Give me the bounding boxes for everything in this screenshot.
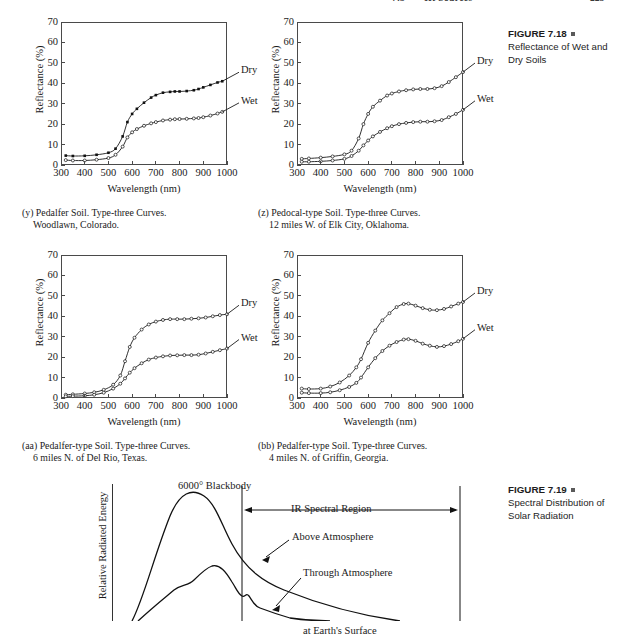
data-point: [397, 123, 400, 126]
x-tick-label: 600: [360, 167, 376, 178]
data-point: [350, 155, 353, 158]
x-tick-mark: [84, 394, 85, 398]
data-point: [388, 344, 391, 347]
x-axis-ticks: 3004005006007008009001000: [297, 400, 463, 414]
annotation-through-atmosphere-line2: at Earth's Surface: [303, 625, 377, 636]
data-point: [140, 362, 143, 365]
data-point: [71, 159, 74, 162]
data-point: [143, 101, 146, 104]
x-tick-label: 300: [53, 167, 69, 178]
data-point: [169, 354, 172, 357]
chart-area: Reflectance (%)706050403020100DryWet3004…: [26, 255, 254, 433]
panel-caption-aa: (aa) Pedalfer-type Soil. Type-three Curv…: [22, 440, 190, 463]
data-point: [300, 391, 303, 394]
data-point: [319, 156, 322, 159]
data-point: [112, 387, 115, 390]
data-point: [307, 157, 310, 160]
curve-through-atmosphere: [138, 566, 330, 621]
series-leader-line: [227, 305, 239, 314]
running-head-title: IR Sources: [424, 0, 472, 3]
data-point: [169, 118, 172, 121]
data-point: [331, 155, 334, 158]
x-tick-label: 600: [124, 167, 140, 178]
y-tick-label: 30: [268, 99, 294, 109]
x-tick-label: 400: [77, 167, 93, 178]
x-tick-mark: [344, 394, 345, 398]
data-point: [192, 117, 195, 120]
data-point: [412, 88, 415, 91]
data-point: [162, 91, 165, 94]
x-tick-label: 400: [313, 167, 329, 178]
data-point: [218, 314, 221, 317]
x-tick-label: 300: [289, 400, 305, 411]
data-point: [435, 345, 438, 348]
data-point: [371, 135, 374, 138]
data-point: [395, 341, 398, 344]
data-point: [362, 144, 365, 147]
data-point: [193, 89, 196, 92]
data-point: [329, 391, 332, 394]
data-point: [402, 303, 405, 306]
data-point: [433, 120, 436, 123]
x-tick-label: 500: [101, 400, 117, 411]
data-point: [143, 124, 146, 127]
x-tick-mark: [439, 161, 440, 165]
data-point: [355, 381, 358, 384]
annotation-above-atmosphere: Above Atmosphere: [292, 531, 373, 542]
x-tick-label: 800: [408, 400, 424, 411]
data-point: [176, 354, 179, 357]
chart-panel-y: Reflectance (%)706050403020100DryWet3004…: [26, 22, 254, 200]
data-point: [202, 116, 205, 119]
figure-note-7-19: FIGURE 7.19 Spectral Distribution of Sol…: [508, 483, 612, 523]
data-point: [121, 145, 124, 148]
caption-line-1: (aa) Pedalfer-type Soil. Type-three Curv…: [22, 440, 190, 451]
data-point: [154, 356, 157, 359]
y-tick-label: 60: [268, 270, 294, 280]
y-tick-label: 50: [32, 291, 58, 301]
panel-caption-bb: (bb) Pedalfer-type Soil. Type-three Curv…: [258, 440, 427, 463]
y-tick-label: 30: [268, 332, 294, 342]
data-point: [360, 358, 363, 361]
x-tick-mark: [368, 161, 369, 165]
x-tick-mark: [108, 394, 109, 398]
data-point: [331, 159, 334, 162]
data-point: [114, 147, 117, 150]
series-leader-line: [463, 101, 475, 110]
data-point: [379, 99, 382, 102]
data-point: [209, 84, 212, 87]
x-axis-label: Wavelength (nm): [297, 183, 463, 194]
series-label-dry: Dry: [241, 297, 257, 308]
data-point: [64, 154, 67, 157]
data-point: [204, 352, 207, 355]
x-tick-label: 900: [195, 167, 211, 178]
caption-line-1: (y) Pedalfer Soil. Type-three Curves.: [22, 207, 166, 218]
data-point: [407, 338, 410, 341]
arrow-head-icon: [272, 605, 280, 612]
y-tick-label: 10: [268, 140, 294, 150]
data-point: [150, 122, 153, 125]
y-tick-label: 40: [268, 311, 294, 321]
y-axis-label-719: Relative Radiated Energy: [97, 466, 108, 626]
data-point: [128, 371, 131, 374]
data-point: [428, 344, 431, 347]
data-point: [412, 121, 415, 124]
data-point: [307, 388, 310, 391]
data-point: [209, 114, 212, 117]
x-axis-label: Wavelength (nm): [61, 416, 227, 427]
y-tick-label: 20: [268, 119, 294, 129]
y-axis-ticks: 706050403020100: [262, 255, 294, 398]
data-point: [218, 349, 221, 352]
data-point: [443, 345, 446, 348]
data-point: [390, 125, 393, 128]
series-line-dry: [302, 302, 463, 389]
data-point: [307, 160, 310, 163]
data-point: [197, 317, 200, 320]
y-tick-label: 40: [268, 78, 294, 88]
plot-curves: [61, 255, 227, 398]
y-axis-ticks: 706050403020100: [26, 22, 58, 165]
leader-above-atmosphere: [266, 540, 289, 557]
x-tick-mark: [155, 161, 156, 165]
leader-through-atmosphere: [276, 578, 301, 606]
figure-label-7-19: FIGURE 7.19: [508, 484, 567, 495]
running-head-text: 7.3 IR Sources: [392, 0, 473, 3]
